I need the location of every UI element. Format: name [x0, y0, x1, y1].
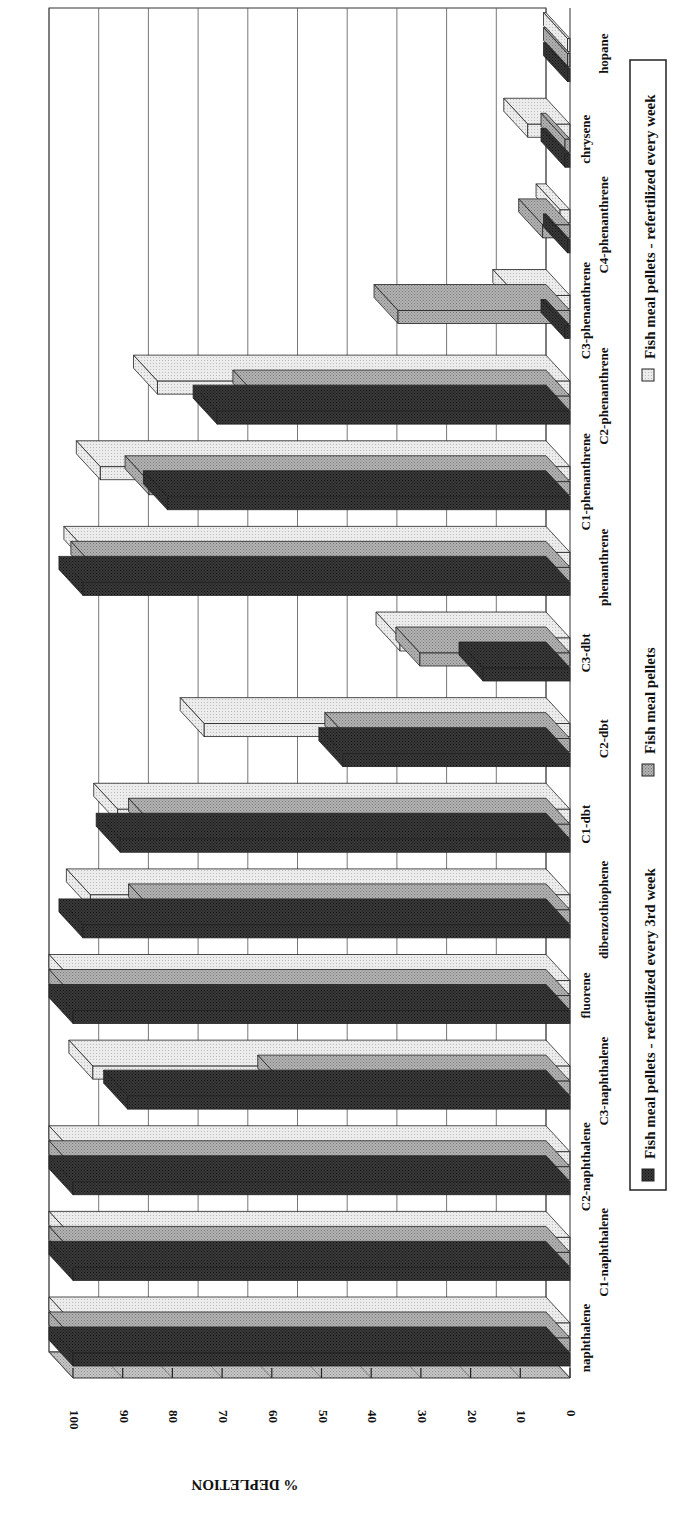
depletion-bar-chart: 0102030405060708090100 naphthaleneC1-nap… [0, 0, 699, 1526]
bar-group-fluorene [49, 955, 570, 1024]
tick-label: 70 [216, 1410, 231, 1423]
bar [73, 1353, 570, 1366]
bar-top-face [49, 985, 570, 1011]
category-label: hopane [596, 33, 611, 74]
bar-group-C3-naphthalene [69, 1040, 570, 1109]
category-label: C3-naphthalene [596, 1036, 611, 1125]
tick-label: 40 [365, 1410, 380, 1423]
bar-group-phenanthrene [59, 526, 570, 595]
bar [120, 839, 570, 852]
chart-page: 0102030405060708090100 naphthaleneC1-nap… [0, 0, 699, 1526]
bar-top-face [49, 1241, 570, 1267]
category-axis: naphthaleneC1-naphthaleneC2-naphthaleneC… [578, 33, 611, 1372]
category-label: C1-dbt [578, 804, 593, 844]
legend: Fish meal pellets - refertilized every 3… [630, 60, 666, 1190]
legend-swatch [642, 1169, 654, 1181]
bar-top-face [59, 556, 570, 582]
bar [565, 326, 570, 339]
legend-label: Fish meal pellets - refertilized every 3… [642, 867, 658, 1159]
bar-top-face [374, 285, 570, 311]
category-label: naphthalene [578, 1303, 593, 1372]
tick-label: 50 [316, 1410, 331, 1423]
bar-top-face [96, 813, 570, 839]
bar [73, 1182, 570, 1195]
bar-group-dibenzothiophene [59, 869, 570, 938]
bar-top-face [193, 385, 570, 411]
legend-swatch [642, 369, 654, 381]
category-label: C3-dbt [578, 633, 593, 673]
bar-top-face [59, 899, 570, 925]
value-axis: 0102030405060708090100 [67, 1410, 579, 1430]
bar-group-C1-dbt [94, 783, 570, 852]
tick-label: 30 [415, 1410, 430, 1423]
tick-label: 90 [117, 1410, 132, 1423]
category-label: C4-phenanthrene [596, 176, 611, 274]
bar-group-naphthalene [49, 1297, 570, 1366]
category-label: C1-naphthalene [596, 1208, 611, 1297]
category-label: C2-phenanthrene [596, 347, 611, 445]
bar [128, 1096, 570, 1109]
tick-label: 80 [166, 1410, 181, 1423]
axis-title: % DEPLETION [191, 1477, 298, 1493]
category-label: C1-phenanthrene [578, 433, 593, 531]
category-label: dibenzothiophene [596, 861, 611, 959]
category-label: C2-dbt [596, 718, 611, 758]
bar-top-face [143, 471, 570, 497]
category-label: C3-phenanthrene [578, 262, 593, 360]
bar-group-C1-naphthalene [49, 1211, 570, 1280]
tick-label: 0 [564, 1410, 579, 1417]
category-label: chrysene [578, 114, 593, 163]
bar [483, 668, 570, 681]
bar [217, 411, 570, 424]
bar [167, 497, 570, 510]
legend-label: Fish meal pellets [642, 647, 658, 754]
bar [565, 154, 570, 167]
bar-group-hopane [544, 13, 570, 82]
tick-label: 100 [67, 1410, 82, 1430]
category-label: C2-naphthalene [578, 1122, 593, 1211]
tick-label: 20 [465, 1410, 480, 1423]
legend-label: Fish meal pellets - refertilized every w… [642, 94, 658, 359]
bar [343, 754, 570, 767]
bar-top-face [319, 728, 570, 754]
legend-swatch [642, 764, 654, 776]
bar [73, 1267, 570, 1280]
bar [83, 925, 570, 938]
bar-top-face [49, 1327, 570, 1353]
axis-title-text: % DEPLETION [191, 1477, 298, 1493]
plot-area [49, 8, 570, 1378]
tick-label: 10 [514, 1410, 529, 1423]
bar-top-face [49, 1156, 570, 1182]
category-label: fluorene [578, 972, 593, 1018]
bar [73, 1011, 570, 1024]
tick-label: 60 [266, 1410, 281, 1423]
bar-top-face [104, 1070, 570, 1096]
bar [83, 582, 570, 595]
category-label: phenanthrene [596, 529, 611, 606]
bar-group-C2-naphthalene [49, 1126, 570, 1195]
